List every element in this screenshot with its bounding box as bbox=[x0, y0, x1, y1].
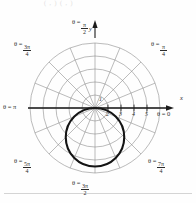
angle-label-theta-0: θ = 0 bbox=[157, 111, 170, 118]
y-axis-label: y bbox=[89, 26, 92, 33]
fraction-3pi-over-2: 3π2 bbox=[81, 183, 89, 196]
angle-label-theta-3pi-over-4-eq: θ = bbox=[14, 40, 22, 47]
y-axis-arrowhead bbox=[92, 20, 97, 28]
angle-label-theta-7pi-over-4: θ =7π4 bbox=[148, 158, 166, 174]
angle-label-theta-3pi-over-2-eq: θ = bbox=[72, 179, 80, 186]
fraction-5pi-over-4-denominator: 4 bbox=[25, 168, 30, 174]
angle-label-theta-pi-over-2-eq: θ = bbox=[72, 18, 80, 25]
fraction-3pi-over-4-denominator: 4 bbox=[25, 51, 30, 57]
angle-label-theta-5pi-over-4: θ =5π4 bbox=[14, 158, 32, 174]
fraction-3pi-over-2-denominator: 2 bbox=[83, 190, 88, 196]
fraction-pi-over-4: π4 bbox=[160, 44, 167, 57]
angle-label-theta-pi-over-4: θ =π4 bbox=[151, 41, 168, 57]
radial-tick-label-2: 2 bbox=[106, 111, 109, 117]
radial-tick-label-4: 4 bbox=[132, 111, 135, 117]
angle-label-theta-3pi-over-2: θ =3π2 bbox=[72, 180, 90, 196]
fraction-7pi-over-4: 7π4 bbox=[157, 161, 165, 174]
fraction-3pi-over-4: 3π4 bbox=[23, 44, 31, 57]
angle-label-theta-3pi-over-4: θ =3π4 bbox=[14, 41, 32, 57]
x-axis-label: x bbox=[180, 95, 183, 102]
fraction-pi-over-2-denominator: 2 bbox=[82, 29, 87, 35]
angle-label-theta-pi-over-2: θ =π2 bbox=[72, 19, 89, 35]
polar-plot-figure: ( , ) ( , ) bbox=[0, 0, 196, 203]
fraction-pi-over-2: π2 bbox=[81, 22, 88, 35]
radial-tick-label-3: 3 bbox=[119, 111, 122, 117]
fraction-7pi-over-4-denominator: 4 bbox=[159, 168, 164, 174]
angle-label-theta-pi-over-4-eq: θ = bbox=[151, 40, 159, 47]
fraction-pi-over-4-denominator: 4 bbox=[161, 51, 166, 57]
angle-label-theta-pi: θ = π bbox=[3, 104, 16, 111]
radial-tick-label-1: 1 bbox=[99, 96, 102, 102]
fraction-5pi-over-4: 5π4 bbox=[23, 161, 31, 174]
radial-tick-label-5: 5 bbox=[145, 111, 148, 117]
angle-label-theta-5pi-over-4-eq: θ = bbox=[14, 157, 22, 164]
angle-label-theta-7pi-over-4-eq: θ = bbox=[148, 157, 156, 164]
